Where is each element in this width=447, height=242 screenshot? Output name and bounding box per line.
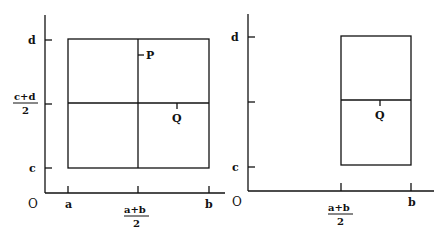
right-origin-label: O [232, 195, 242, 209]
point-q-label: Q [172, 112, 182, 125]
x-label-b: b [205, 198, 213, 211]
right-y-label-d: d [231, 31, 239, 44]
right-y-label-c: c [232, 161, 239, 174]
right-point-q-label: Q [375, 109, 385, 122]
bisection-diagram: P Q d c+d 2 c O a a+b 2 b Q d c [0, 0, 447, 242]
y-label-d: d [28, 34, 36, 47]
x-label-a: a [65, 198, 72, 211]
right-x-label-mid-denominator: 2 [337, 216, 344, 227]
right-x-label-b: b [408, 196, 416, 209]
left-panel: P Q d c+d 2 c O a a+b 2 b [13, 15, 225, 229]
y-label-mid-denominator: 2 [22, 105, 29, 116]
x-label-mid-denominator: 2 [133, 218, 140, 229]
x-label-mid-numerator: a+b [124, 204, 146, 215]
y-label-c: c [29, 162, 36, 175]
right-panel: Q d c O a+b 2 b [231, 14, 434, 227]
point-p-label: P [146, 49, 154, 62]
y-label-mid-numerator: c+d [14, 91, 35, 102]
origin-label: O [28, 197, 38, 211]
right-x-label-mid-numerator: a+b [328, 202, 350, 213]
